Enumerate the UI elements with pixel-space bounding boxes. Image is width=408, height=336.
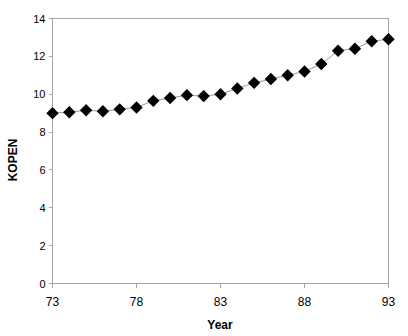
x-axis-label: Year xyxy=(207,318,233,332)
chart-container: 02468101214 7378838893 KOPEN Year xyxy=(0,0,408,336)
x-tick-label: 73 xyxy=(46,295,60,309)
x-tick-label: 88 xyxy=(298,295,312,309)
y-tick-label: 6 xyxy=(39,164,45,176)
y-tick-label: 2 xyxy=(39,240,45,252)
plot-background xyxy=(0,0,408,336)
y-tick-label: 8 xyxy=(39,126,45,138)
y-tick-label: 14 xyxy=(33,13,45,25)
x-tick-label: 93 xyxy=(382,295,396,309)
x-tick-label: 78 xyxy=(130,295,144,309)
y-tick-label: 10 xyxy=(33,88,45,100)
line-chart: 02468101214 7378838893 KOPEN Year xyxy=(0,0,408,336)
y-tick-label: 12 xyxy=(33,50,45,62)
y-axis-label: KOPEN xyxy=(6,139,20,182)
y-tick-label: 4 xyxy=(39,202,45,214)
y-tick-label: 0 xyxy=(39,278,45,290)
x-tick-label: 83 xyxy=(214,295,228,309)
